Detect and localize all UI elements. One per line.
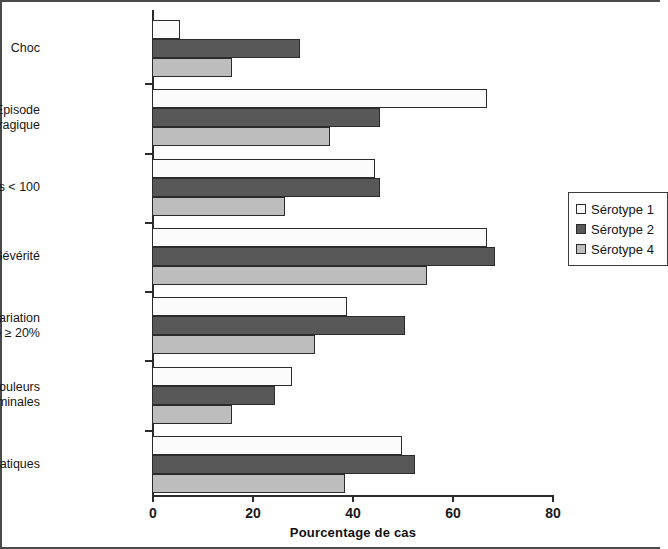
bar <box>152 297 347 316</box>
bar-group: Douleurs abdominales <box>152 360 552 429</box>
bar <box>152 159 375 178</box>
y-axis-tick <box>145 430 152 432</box>
y-axis-tick <box>145 360 152 362</box>
x-axis-tick <box>452 495 454 502</box>
bar-group: Plaquettes < 100 <box>152 153 552 222</box>
x-axis-tick-label: 0 <box>123 505 183 521</box>
bar-group: Signes hépatiques <box>152 430 552 499</box>
category-label: Episode hémorragique <box>0 103 40 133</box>
legend-item-serotype-4: Sérotype 4 <box>576 239 661 259</box>
bar <box>152 58 232 77</box>
legend-item-serotype-2: Sérotype 2 <box>576 219 661 239</box>
bar <box>152 39 300 58</box>
bar <box>152 335 315 354</box>
category-label: Choc <box>0 41 40 56</box>
x-axis-tick <box>352 495 354 502</box>
bar <box>152 89 487 108</box>
bar <box>152 247 495 266</box>
legend-label: Sérotype 1 <box>591 202 654 217</box>
bar <box>152 474 345 493</box>
legend-label: Sérotype 2 <box>591 222 654 237</box>
legend-label: Sérotype 4 <box>591 242 654 257</box>
x-axis-tick <box>152 495 154 502</box>
y-axis-tick <box>145 83 152 85</box>
category-label: Variation d'hématocrite ≥ 20% <box>0 311 40 341</box>
category-label: Signes hépatiques <box>0 457 40 472</box>
y-axis-tick <box>145 291 152 293</box>
bar <box>152 197 285 216</box>
category-label: Douleurs abdominales <box>0 380 40 410</box>
bar <box>152 20 180 39</box>
chart-legend: Sérotype 1 Sérotype 2 Sérotype 4 <box>568 192 668 266</box>
bar <box>152 455 415 474</box>
bar <box>152 178 380 197</box>
x-axis-title: Pourcentage de cas <box>152 525 554 540</box>
bar <box>152 367 292 386</box>
bar-group: Sévérité <box>152 222 552 291</box>
legend-item-serotype-1: Sérotype 1 <box>576 199 661 219</box>
bar <box>152 386 275 405</box>
y-axis-tick <box>145 153 152 155</box>
bar <box>152 228 487 247</box>
x-axis-tick <box>252 495 254 502</box>
legend-swatch-icon <box>576 204 586 214</box>
x-axis-tick-label: 20 <box>223 505 283 521</box>
x-axis-tick-label: 60 <box>423 505 483 521</box>
bar <box>152 436 402 455</box>
bar-group: Choc <box>152 14 552 83</box>
bar <box>152 405 232 424</box>
legend-swatch-icon <box>576 224 586 234</box>
bar-group: Variation d'hématocrite ≥ 20% <box>152 291 552 360</box>
bar <box>152 266 427 285</box>
x-axis-tick-label: 40 <box>323 505 383 521</box>
category-label: Sévérité <box>0 249 40 264</box>
bar <box>152 316 405 335</box>
bar <box>152 108 380 127</box>
legend-swatch-icon <box>576 244 586 254</box>
plot-area: ChocEpisode hémorragiquePlaquettes < 100… <box>152 14 552 494</box>
bar-group: Episode hémorragique <box>152 83 552 152</box>
bar <box>152 127 330 146</box>
x-axis-tick-label: 80 <box>523 505 583 521</box>
y-axis-tick <box>145 222 152 224</box>
category-label: Plaquettes < 100 <box>0 180 40 195</box>
x-axis-tick <box>552 495 554 502</box>
